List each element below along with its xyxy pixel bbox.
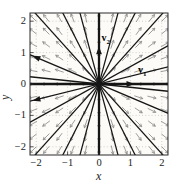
x-tick-label: −2 — [31, 158, 42, 169]
v2-subscript: 2 — [107, 38, 111, 46]
phase-portrait-figure: y x v2 v1 −2−1012210−1−2 — [0, 0, 177, 184]
y-tick-label: 2 — [8, 16, 26, 27]
field-arrow-head — [141, 28, 142, 31]
field-arrow-head — [114, 40, 115, 43]
y-axis-label: y — [0, 95, 11, 100]
field-arrow-head — [140, 99, 143, 100]
x-tick-label: −1 — [62, 158, 73, 169]
field-arrow-head — [152, 126, 155, 127]
y-tick-label: −2 — [8, 142, 26, 153]
x-tick-label: 1 — [128, 158, 133, 169]
v1-subscript: 1 — [143, 70, 147, 78]
y-tick-label: 1 — [8, 47, 26, 58]
x-axis-label: x — [96, 170, 101, 182]
field-arrow-head — [43, 42, 46, 43]
eigenvector-v1-label: v1 — [138, 65, 147, 78]
equilibrium-point — [97, 82, 102, 87]
y-tick-label: 0 — [8, 79, 26, 90]
plot-area — [0, 0, 177, 184]
field-arrow-head — [57, 137, 58, 140]
field-arrow-head — [84, 125, 85, 128]
eigenvector-v2-label: v2 — [102, 33, 111, 46]
y-tick-label: −1 — [8, 110, 26, 121]
x-tick-label: 2 — [159, 158, 164, 169]
field-arrow-head — [55, 69, 58, 70]
x-tick-label: 0 — [96, 158, 101, 169]
